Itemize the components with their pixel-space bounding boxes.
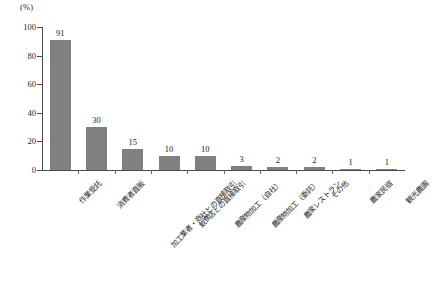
bar-value-label: 30 — [76, 116, 116, 125]
bar — [304, 167, 325, 170]
bar-value-label: 3 — [222, 155, 262, 164]
bar-value-label: 2 — [294, 156, 334, 165]
bar-value-label: 2 — [258, 156, 298, 165]
bar-value-label: 91 — [40, 29, 80, 38]
plot-area: 020406080100 913015101032211 作業受託消費者直販加工… — [0, 0, 432, 298]
bar — [340, 169, 361, 170]
bar-value-label: 1 — [367, 158, 407, 167]
bar — [267, 167, 288, 170]
bar — [122, 149, 143, 170]
bar-value-label: 10 — [149, 145, 189, 154]
bar — [195, 156, 216, 170]
bar-value-label: 10 — [185, 145, 225, 154]
bar — [159, 156, 180, 170]
bar — [376, 169, 397, 170]
bar — [50, 40, 71, 170]
bar-value-label: 1 — [331, 158, 371, 167]
bar-chart: (%) 020406080100 913015101032211 作業受託消費者… — [0, 0, 432, 298]
bar-value-label: 15 — [113, 138, 153, 147]
bar — [231, 166, 252, 170]
bar — [86, 127, 107, 170]
